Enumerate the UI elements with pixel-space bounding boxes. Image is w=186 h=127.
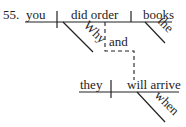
sentence-number: 55.	[3, 7, 19, 22]
clause2-subject: they	[80, 77, 103, 92]
clause1-subject: you	[26, 7, 46, 22]
conjunction-and: and	[109, 34, 128, 49]
sentence-diagram: 55. you did order books Why the and they…	[0, 0, 186, 127]
clause2-verb: will arrive	[127, 77, 181, 92]
conjunction-connector	[105, 22, 134, 80]
